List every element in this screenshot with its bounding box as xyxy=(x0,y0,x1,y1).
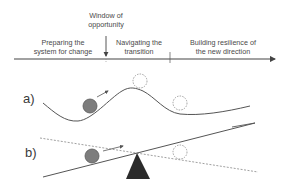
ghost-ball-new-state xyxy=(173,145,187,159)
ball-current-state xyxy=(83,99,97,113)
panel-b-seesaw xyxy=(40,123,258,179)
ghost-ball-new-state xyxy=(173,96,187,110)
panel-a-landscape xyxy=(43,74,255,127)
ghost-ball-peak xyxy=(133,74,147,88)
diagram-graphics xyxy=(0,0,288,188)
panel-b-label: b) xyxy=(25,145,37,160)
resilience-transition-diagram: Window of opportunity Preparing the syst… xyxy=(0,0,288,188)
ball-current-state xyxy=(85,149,99,163)
phase-label-building: Building resilience of the new direction xyxy=(180,39,266,56)
fulcrum-icon xyxy=(126,153,150,179)
window-of-opportunity-label: Window of opportunity xyxy=(86,12,126,29)
phase-label-preparing: Preparing the system for change xyxy=(28,39,98,56)
panel-a-label: a) xyxy=(23,91,35,106)
phase-label-navigating: Navigating the transition xyxy=(110,39,168,56)
momentum-arrow-icon xyxy=(97,91,108,97)
